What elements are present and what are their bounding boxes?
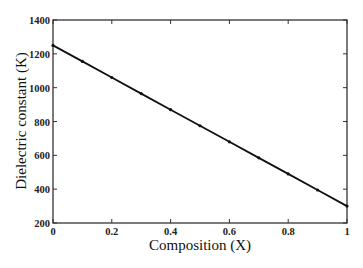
- x-tick-label: 0.4: [164, 226, 178, 237]
- y-axis-ticks: 200400600800100012001400: [29, 15, 347, 229]
- x-tick-label: 0: [50, 226, 55, 237]
- plot-frame: [53, 20, 347, 223]
- x-axis-title: Composition (X): [149, 237, 251, 254]
- data-point-marker: [228, 140, 231, 143]
- dielectric-constant-chart: 00.20.40.60.81 200400600800100012001400 …: [0, 0, 363, 268]
- data-point-marker: [81, 60, 84, 63]
- data-point-marker: [198, 124, 201, 127]
- y-tick-label: 1200: [29, 49, 50, 60]
- x-axis-ticks: 00.20.40.60.81: [50, 20, 349, 237]
- y-tick-label: 200: [34, 218, 50, 229]
- y-tick-label: 1000: [29, 83, 50, 94]
- data-point-marker: [51, 44, 54, 47]
- data-series: [51, 44, 348, 208]
- y-tick-label: 600: [34, 150, 50, 161]
- data-point-marker: [257, 156, 260, 159]
- plot-box: [53, 20, 347, 223]
- y-tick-label: 1400: [29, 15, 50, 26]
- y-tick-label: 400: [34, 184, 50, 195]
- data-point-marker: [169, 108, 172, 111]
- y-tick-label: 800: [34, 117, 50, 128]
- data-point-marker: [110, 76, 113, 79]
- x-tick-label: 0.2: [105, 226, 118, 237]
- x-tick-label: 0.8: [282, 226, 295, 237]
- data-point-marker: [140, 92, 143, 95]
- x-tick-label: 1: [344, 226, 349, 237]
- y-axis-title: Dielectric constant (K): [13, 52, 30, 189]
- data-point-marker: [316, 188, 319, 191]
- x-tick-label: 0.6: [223, 226, 236, 237]
- data-point-marker: [287, 172, 290, 175]
- data-point-marker: [345, 204, 348, 207]
